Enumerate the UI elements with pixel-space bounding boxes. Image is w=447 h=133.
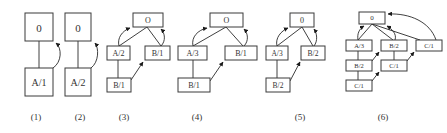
edge-a-o — [119, 27, 147, 46]
diagram-2: 0 A/2 (2) — [65, 13, 98, 122]
node-label: O — [145, 16, 151, 25]
node-label: A/2 — [71, 77, 86, 88]
node-b: B/1 — [145, 46, 170, 60]
node-o: O — [133, 13, 163, 27]
node-label: 0 — [300, 16, 304, 25]
node-label: B/1 — [235, 49, 247, 58]
node-label: B/1 — [113, 81, 125, 90]
node-b: B/1 — [225, 46, 257, 60]
node-label: 0 — [370, 14, 374, 22]
node-b2: B/2 — [266, 78, 290, 92]
edge-c-o — [372, 24, 420, 40]
node-b: B/2 — [381, 40, 407, 51]
node-b2: B/1 — [107, 78, 131, 92]
caption: (2) — [75, 112, 86, 122]
diagram-4: O A/3 B/1 B/1 (4) — [178, 13, 257, 122]
node-label: B/2 — [308, 49, 319, 58]
caption: (6) — [378, 112, 389, 122]
node-o: 0 — [25, 13, 53, 41]
node-label: A/3 — [354, 42, 364, 49]
node-a: A/3 — [266, 46, 288, 60]
node-b2: B/2 — [346, 60, 372, 71]
arrow-b2-to-b — [372, 52, 379, 61]
arrow-b2-to-b — [131, 62, 143, 80]
diagram-6: 0 A/3 B/2 C/1 B/2 C/1 C/1 (6) — [346, 12, 442, 122]
node-a: A/3 — [178, 46, 207, 60]
node-label: B/2 — [273, 81, 284, 90]
node-label: O — [224, 16, 230, 25]
node-label: C/1 — [424, 42, 433, 49]
node-label: C/1 — [389, 62, 398, 69]
edge-a-o — [358, 24, 372, 40]
node-label: 0 — [75, 22, 81, 34]
curved-arrow-b-to-o — [314, 29, 317, 46]
node-label: A/2 — [113, 49, 125, 58]
diagram-1: 0 A/1 (1) — [25, 13, 60, 122]
node-o: 0 — [290, 13, 314, 27]
diagram-canvas: 0 A/1 (1) 0 A/2 (2) O — [0, 0, 447, 133]
node-o: O — [210, 13, 243, 27]
node-b: B/2 — [301, 46, 325, 60]
edge-a-o — [277, 27, 302, 46]
curved-arrow-a-to-o — [277, 28, 288, 46]
node-label: B/2 — [354, 62, 363, 69]
arrow-c2-to-c — [407, 52, 414, 61]
node-c: C/1 — [416, 40, 442, 51]
diagram-3: O A/2 B/1 B/1 (3) — [107, 13, 170, 122]
node-label: A/3 — [271, 49, 283, 58]
diagram-5: 0 A/3 B/2 B/2 (5) — [266, 13, 325, 122]
curved-arrow-b-to-o — [387, 26, 395, 40]
node-a: A/2 — [107, 46, 130, 60]
edge-a-o — [193, 27, 226, 46]
arrow-b2-to-b — [210, 62, 223, 81]
node-c3: C/1 — [346, 80, 372, 91]
node-a: A/2 — [65, 68, 91, 96]
curved-arrow-a-to-o — [91, 43, 98, 68]
edge-b-o — [147, 27, 161, 46]
arrow-b2-to-b — [290, 62, 300, 81]
caption: (4) — [192, 112, 203, 122]
node-label: A/3 — [187, 49, 199, 58]
node-label: A/1 — [32, 77, 47, 88]
edge-b-o — [372, 24, 393, 40]
node-label: B/1 — [152, 49, 164, 58]
curved-arrow-b-to-o — [161, 29, 164, 46]
node-label: C/1 — [354, 82, 363, 89]
curved-arrow-a-to-o — [358, 26, 364, 40]
node-label: B/2 — [389, 42, 398, 49]
caption: (3) — [119, 112, 130, 122]
curved-arrow-a-to-o — [193, 28, 207, 46]
curved-arrow-a-to-o — [53, 43, 60, 68]
curved-arrow-b-to-o — [244, 29, 247, 46]
edge-b-o — [302, 27, 313, 46]
node-b2: B/1 — [178, 78, 210, 92]
node-o: 0 — [65, 13, 91, 41]
node-o: 0 — [359, 12, 385, 24]
node-a: A/1 — [25, 68, 53, 96]
node-label: B/1 — [188, 81, 200, 90]
node-a: A/3 — [346, 40, 372, 51]
caption: (1) — [31, 112, 42, 122]
node-c2: C/1 — [381, 60, 407, 71]
arrow-c3-to-c2 — [372, 72, 379, 81]
caption: (5) — [295, 112, 306, 122]
edge-b-o — [226, 27, 243, 46]
node-label: 0 — [36, 22, 42, 34]
curved-arrow-a-to-o — [119, 28, 130, 46]
